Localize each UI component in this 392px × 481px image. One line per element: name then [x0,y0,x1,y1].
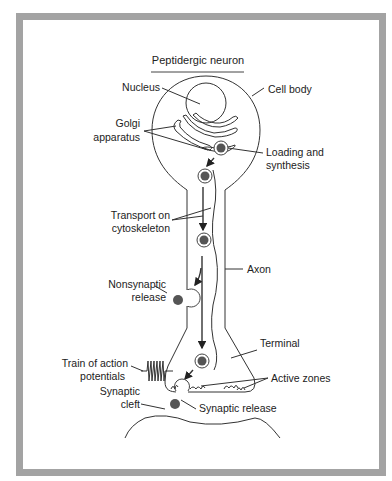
action-potential-train [141,361,173,381]
label-cell-body: Cell body [268,83,313,95]
label-train-1: Train of action [62,357,128,369]
nonsynaptic-arrow [195,268,201,285]
label-axon: Axon [247,263,271,275]
label-terminal: Terminal [260,337,300,349]
golgi-apparatus [174,113,238,152]
diagram-title: Peptidergic neuron [152,54,244,66]
vesicle-loading [214,141,228,155]
leader-synaptic-release [181,400,196,409]
leader-golgi-2 [144,131,208,150]
leader-transport-1 [172,208,211,220]
label-golgi-1: Golgi [115,117,140,129]
cytoskeleton [212,170,218,370]
release-arrow [185,370,193,379]
vesicle-nonsynaptic [173,295,183,305]
vesicle-axon-mid [197,233,211,247]
label-loading-1: Loading and [266,146,324,158]
label-golgi-2: apparatus [93,131,140,143]
leader-golgi-1 [144,126,176,131]
leader-train [131,366,143,371]
vesicle-terminal [195,354,209,368]
label-train-2: potentials [80,370,125,382]
leader-terminal [231,350,257,358]
label-active-zones: Active zones [271,372,331,384]
neuron-diagram: Peptidergic neuron [0,0,392,481]
label-transport-1: Transport on [111,209,170,221]
label-transport-2: cytoskeleton [112,222,171,234]
label-nucleus: Nucleus [122,81,160,93]
label-nonsynaptic-2: release [132,291,167,303]
label-cleft-2: cleft [121,398,140,410]
nonsynaptic-bulge [187,289,200,307]
postsynaptic-membrane [125,416,280,438]
label-synaptic-release: Synaptic release [199,402,277,414]
leader-cleft [141,404,165,409]
released-vesicle [170,399,180,409]
leader-nucleus [162,88,200,104]
arrow-to-axon [207,158,214,166]
vesicle-axon-top [198,169,212,183]
nucleus [186,83,226,123]
leader-cell-body [252,88,264,96]
label-nonsynaptic-1: Nonsynaptic [108,278,166,290]
label-cleft-1: Synaptic [100,385,140,397]
label-loading-2: synthesis [266,159,310,171]
